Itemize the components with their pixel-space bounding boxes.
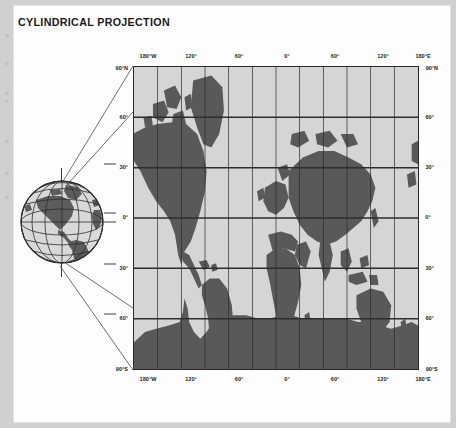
page-root: CYLINDRICAL PROJECTION: [0, 0, 456, 428]
globe-axis-pin-south: [61, 263, 62, 277]
world-map-svg: [134, 67, 418, 369]
lon-label-bottom-5: 120°: [377, 375, 389, 382]
lat-label-right-2: 30°: [425, 163, 433, 170]
lat-label-right-5: 60°: [425, 314, 433, 321]
lat-label-left-2: 30°: [120, 163, 128, 170]
lon-label-bottom-6: 180°E: [415, 375, 430, 382]
page-title: CYLINDRICAL PROJECTION: [18, 16, 170, 28]
lat-label-right-1: 60°: [425, 113, 433, 120]
lat-label-left-6: 90°S: [116, 365, 128, 372]
lon-label-top-0: 180°W: [140, 52, 157, 59]
lat-label-left-1: 60°: [120, 113, 128, 120]
lon-label-bottom-1: 120°: [185, 375, 197, 382]
lat-label-left-5: 60°: [120, 314, 128, 321]
scan-gutter: [0, 0, 14, 428]
world-map-plate: [133, 66, 419, 370]
lon-label-bottom-0: 180°W: [140, 375, 157, 382]
lat-label-left-0: 90°N: [116, 64, 128, 71]
lon-label-top-6: 180°E: [415, 52, 430, 59]
lon-label-top-5: 120°: [377, 52, 389, 59]
lat-label-right-0: 90°N: [426, 64, 438, 71]
reference-globe: [20, 180, 104, 264]
lon-label-bottom-2: 60°: [235, 375, 243, 382]
lon-label-bottom-4: 60°: [331, 375, 339, 382]
lon-label-top-1: 120°: [185, 52, 197, 59]
lat-label-right-3: 0°: [425, 213, 430, 220]
lat-label-left-3: 0°: [123, 213, 128, 220]
lon-label-bottom-3: 0°: [284, 375, 289, 382]
lon-label-top-3: 0°: [284, 52, 289, 59]
lon-label-top-4: 60°: [331, 52, 339, 59]
lat-label-left-4: 30°: [120, 264, 128, 271]
lat-label-right-4: 30°: [425, 264, 433, 271]
lon-label-top-2: 60°: [235, 52, 243, 59]
lat-label-right-6: 90°S: [426, 365, 438, 372]
